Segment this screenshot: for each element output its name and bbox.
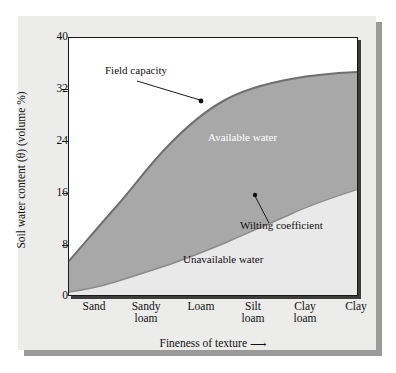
x-tick-label-loam: Loam — [188, 301, 215, 313]
annotation-wilting-coefficient: Wilting coefficient — [240, 220, 323, 231]
x-tick-label-sandy-loam-line1: Sandy — [132, 300, 161, 312]
x-axis-tick-labels: Sand Sandy loam Loam Silt loam Clay loam… — [68, 301, 358, 335]
x-tick-label-sandy-loam: Sandy loam — [132, 301, 161, 324]
field-capacity-point-marker — [199, 99, 204, 104]
x-tick-label-sandy-loam-line2: loam — [132, 313, 161, 325]
x-tick-label-clay-loam-line2: loam — [294, 313, 317, 325]
x-axis-title-text: Fineness of texture — [159, 337, 247, 349]
figure-container: 40 32 24 16 8 0 Soil water content (θ) (… — [0, 0, 396, 373]
plot-area: Field capacity Available water Wilting c… — [68, 37, 358, 296]
field-capacity-leader-line — [137, 81, 200, 100]
arrow-right-icon: ⟶ — [250, 337, 267, 351]
x-tick-label-loam-line1: Loam — [188, 300, 215, 312]
x-tick-label-sand-line1: Sand — [83, 300, 106, 312]
x-tick-label-clay-line1: Clay — [345, 300, 367, 312]
x-tick-label-clay: Clay — [345, 301, 367, 313]
x-tick-label-silt-loam-line1: Silt — [245, 300, 261, 312]
annotation-available-water: Available water — [208, 132, 277, 143]
wilting-coefficient-point-marker — [253, 193, 257, 197]
x-tick-label-silt-loam-line2: loam — [242, 313, 265, 325]
x-axis-title: Fineness of texture⟶ — [68, 337, 358, 351]
annotation-unavailable-water: Unavailable water — [183, 254, 263, 265]
x-tick-label-clay-loam: Clay loam — [294, 301, 317, 324]
x-tick-label-clay-loam-line1: Clay — [294, 300, 316, 312]
x-tick-label-sand: Sand — [83, 301, 106, 313]
x-tick-label-silt-loam: Silt loam — [242, 301, 265, 324]
y-axis-title: Soil water content (θ) (volume %) — [15, 75, 27, 265]
annotation-field-capacity: Field capacity — [105, 65, 167, 76]
